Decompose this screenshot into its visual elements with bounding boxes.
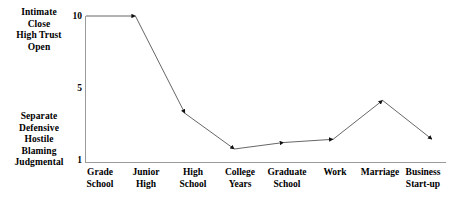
x-label-business-start-up-line1: Business — [388, 167, 450, 179]
segment-graduate-to-work — [383, 100, 432, 139]
segment-flat-a — [284, 139, 333, 142]
segment-junior-to-high — [135, 16, 185, 113]
x-label-graduate-school-line2: School — [252, 179, 322, 191]
segment-college-rise — [234, 143, 283, 150]
segment-high-to-college — [185, 113, 234, 149]
x-axis-labels: Grade School Junior High High School Col… — [0, 167, 450, 205]
segment-to-graduate — [333, 100, 383, 139]
x-label-business-start-up-line2: Start-up — [388, 179, 450, 191]
relationship-openness-line-chart: Intimate Close High Trust Open Separate … — [0, 0, 450, 205]
x-label-business-start-up: Business Start-up — [388, 167, 450, 191]
data-series-openness — [86, 16, 432, 149]
